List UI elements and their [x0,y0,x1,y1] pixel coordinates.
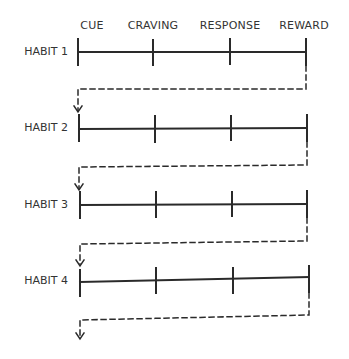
habit-timeline-4 [80,266,309,296]
dashed-connector-4 [76,293,309,339]
dashed-connector-2 [75,142,307,190]
habit-timeline-2 [79,115,307,142]
habit-chain-diagram [0,0,349,359]
habit-timeline-1 [78,39,306,65]
arrow-down-icon [76,260,84,266]
dashed-connector-3 [76,218,307,266]
dashed-connector-1 [74,66,306,112]
habit-timeline-3 [80,191,307,218]
